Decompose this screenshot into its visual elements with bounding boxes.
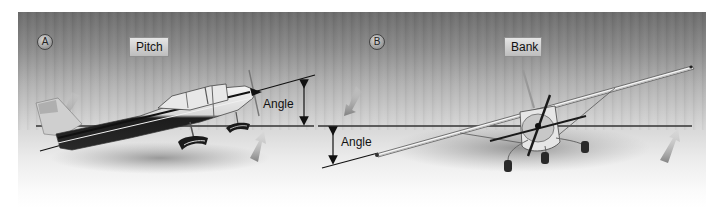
spinner bbox=[535, 123, 541, 129]
spinner bbox=[250, 88, 262, 96]
diagram-artwork bbox=[0, 0, 719, 211]
pitch-panel bbox=[36, 70, 315, 174]
panel-b-badge: B bbox=[369, 34, 385, 50]
bank-angle-label: Angle bbox=[341, 135, 372, 149]
pitch-title-label: Pitch bbox=[129, 37, 169, 57]
bank-angle-line bbox=[322, 153, 378, 168]
bank-title-label: Bank bbox=[504, 37, 542, 57]
pitch-angle-label: Angle bbox=[263, 97, 294, 111]
vertical-tail bbox=[523, 70, 534, 108]
panel-a-badge: A bbox=[37, 34, 53, 50]
bank-panel bbox=[318, 65, 694, 172]
plane-shadow bbox=[390, 124, 650, 172]
nose-gear bbox=[226, 112, 250, 133]
airflow-arrow-icon bbox=[344, 86, 362, 116]
airflow-arrow-icon bbox=[660, 129, 680, 163]
